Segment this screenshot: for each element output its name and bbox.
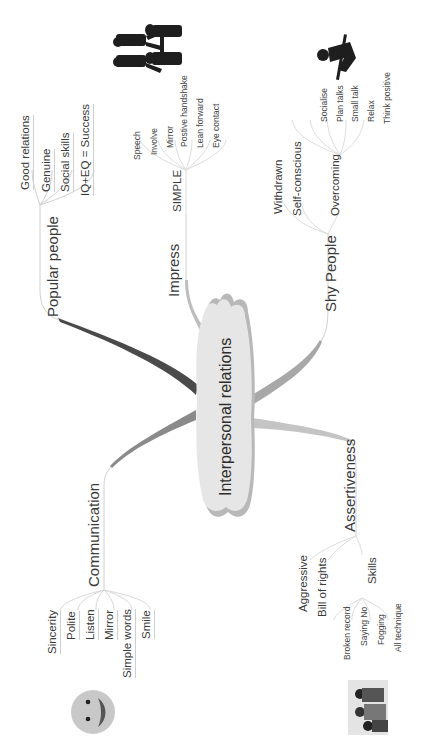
node-small-talk[interactable]: Small talk <box>351 85 360 122</box>
node-simple-words[interactable]: Simple words <box>122 609 136 678</box>
node-genuine[interactable]: Genuine <box>41 149 55 192</box>
node-plan-talks[interactable]: Plan talks <box>336 85 345 122</box>
node-overcoming[interactable]: Overcoming <box>330 154 342 216</box>
person-climbing-silhouette <box>317 34 356 80</box>
node-good-relations[interactable]: Good relations <box>20 115 34 190</box>
node-assertiveness[interactable]: Assertiveness <box>342 439 357 532</box>
node-mirror-communication[interactable]: Mirror <box>104 610 118 640</box>
node-impress[interactable]: Impress <box>166 244 181 297</box>
node-think-positive[interactable]: Think positive <box>383 72 392 124</box>
node-lean-forward[interactable]: Lean forward <box>196 98 205 148</box>
node-bill-of-rights[interactable]: Bill of rights <box>317 558 329 617</box>
node-socialise[interactable]: Socialise <box>320 88 329 122</box>
node-relax[interactable]: Relax <box>367 100 376 122</box>
node-aggressive[interactable]: Aggressive <box>298 555 310 612</box>
center-node-label[interactable]: Interpersonal relations <box>218 338 234 496</box>
node-listen[interactable]: Listen <box>85 609 99 640</box>
node-postive-handshake[interactable]: Postive handshake <box>180 75 189 147</box>
branch-popular-people <box>58 318 198 395</box>
node-all-technique[interactable]: All technique <box>394 603 403 652</box>
node-sincerity[interactable]: Sincerity <box>47 610 61 654</box>
node-polite[interactable]: Polite <box>66 611 80 640</box>
node-self-conscious[interactable]: Self-conscious <box>292 141 304 216</box>
branch-communication <box>110 410 196 468</box>
node-saying-no[interactable]: Saying No <box>360 607 369 646</box>
node-simple[interactable]: SIMPLE <box>172 170 184 212</box>
node-popular-people[interactable]: Popular people <box>45 216 60 317</box>
smiley-face-icon <box>71 690 115 734</box>
node-social-skills[interactable]: Social skills <box>60 133 74 192</box>
node-iq-eq-success[interactable]: IQ+EQ = Success <box>80 104 94 196</box>
node-involve[interactable]: Involve <box>150 128 159 155</box>
node-speech[interactable]: Speech <box>133 131 142 160</box>
node-fogging[interactable]: Fogging <box>377 614 386 645</box>
node-eye-contact[interactable]: Eye contact <box>212 104 221 148</box>
node-shy-people[interactable]: Shy People <box>323 235 338 312</box>
node-skills[interactable]: Skills <box>367 557 379 584</box>
node-withdrawn[interactable]: Withdrawn <box>273 160 285 214</box>
mindmap-canvas: Interpersonal relations Popular people G… <box>0 0 423 753</box>
node-smile[interactable]: Smile <box>141 610 155 639</box>
group-of-people-photo <box>348 680 388 735</box>
branch-assertiveness <box>252 418 352 443</box>
node-broken-record[interactable]: Broken record <box>343 607 352 660</box>
branch-shy-people <box>252 340 322 405</box>
node-communication[interactable]: Communication <box>86 483 101 587</box>
node-mirror-impress[interactable]: Mirror <box>166 126 175 148</box>
